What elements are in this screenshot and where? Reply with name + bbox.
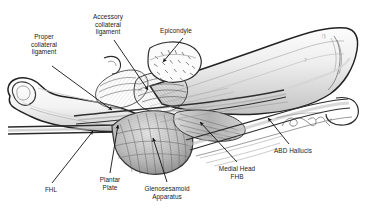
label-epicondyle: Epicondyle: [148, 27, 204, 35]
label-glenosesamoid-apparatus: Glenosesamoid Apparatus: [131, 185, 203, 200]
svg-text:?: ?: [304, 57, 307, 63]
label-fhl: FHL: [36, 186, 66, 194]
label-proper-collateral-ligament: Proper collateral ligament: [16, 33, 72, 56]
artist-signature: [276, 113, 332, 126]
anatomy-figure: /) ?: [0, 0, 365, 209]
leader-fhl: [52, 131, 93, 183]
label-accessory-collateral-ligament: Accessory collateral ligament: [79, 13, 137, 36]
label-plantar-plate: Plantar Plate: [88, 176, 132, 191]
label-medial-head-fhb: Medial Head FHB: [207, 165, 267, 180]
label-abd-hallucis: ABD Hallucis: [265, 147, 321, 155]
